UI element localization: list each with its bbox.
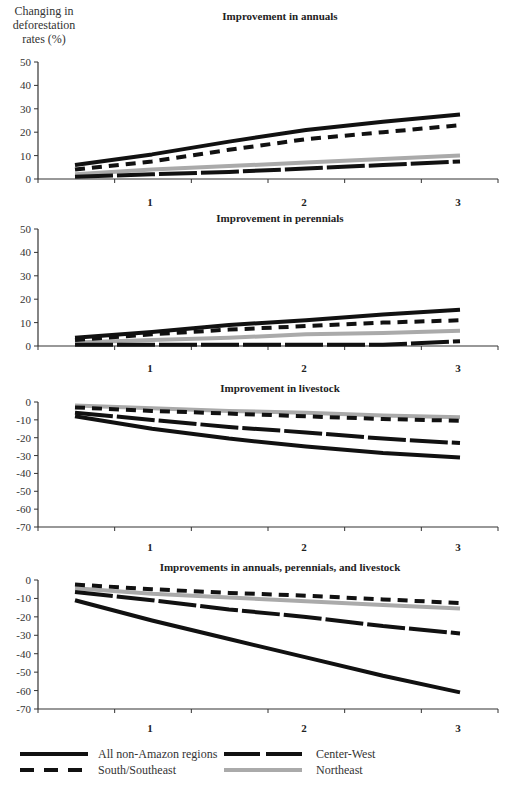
y-tick-label: -40 bbox=[16, 467, 31, 479]
y-tick-label: 20 bbox=[20, 126, 32, 138]
y-tick-label: 0 bbox=[26, 396, 32, 408]
series-line-all-non-amazon-regions bbox=[75, 416, 460, 457]
y-tick-label: 0 bbox=[26, 574, 32, 586]
chart-title: Improvement in annuals bbox=[222, 10, 338, 22]
legend-label: All non-Amazon regions bbox=[98, 747, 217, 762]
y-tick-label: -20 bbox=[16, 432, 31, 444]
legend-item-all-non-amazon: All non-Amazon regions bbox=[18, 746, 217, 762]
x-tick-label: 2 bbox=[301, 722, 307, 734]
legend-item-center-west: Center-West bbox=[222, 746, 375, 762]
y-tick-label: -60 bbox=[16, 503, 31, 515]
chart-title: Improvement in livestock bbox=[220, 382, 340, 394]
legend-swatch-long-dash-icon bbox=[222, 746, 304, 762]
chart-title: Improvements in annuals, perennials, and… bbox=[160, 561, 402, 573]
chart-panel-4: Improvements in annuals, perennials, and… bbox=[16, 561, 498, 734]
y-tick-label: -50 bbox=[16, 485, 31, 497]
chart-canvas: Improvement in annuals01020304050123Impr… bbox=[0, 0, 511, 742]
y-tick-label: 30 bbox=[20, 270, 32, 282]
legend-swatch-short-dash-icon bbox=[18, 762, 90, 778]
y-tick-label: 10 bbox=[20, 150, 32, 162]
legend-swatch-gray-solid-icon bbox=[222, 762, 304, 778]
legend-label: Northeast bbox=[316, 763, 363, 778]
y-tick-label: 40 bbox=[20, 246, 32, 258]
y-tick-label: -40 bbox=[16, 648, 31, 660]
x-tick-label: 3 bbox=[455, 362, 461, 374]
y-tick-label: -30 bbox=[16, 450, 31, 462]
y-tick-label: 30 bbox=[20, 103, 32, 115]
x-tick-label: 3 bbox=[455, 722, 461, 734]
y-tick-label: -70 bbox=[16, 521, 31, 533]
x-tick-label: 1 bbox=[147, 722, 153, 734]
x-tick-label: 2 bbox=[301, 362, 307, 374]
x-tick-label: 1 bbox=[147, 541, 153, 553]
y-tick-label: 10 bbox=[20, 317, 32, 329]
y-tick-label: -70 bbox=[16, 703, 31, 715]
y-tick-label: 50 bbox=[20, 223, 32, 235]
x-tick-label: 3 bbox=[455, 541, 461, 553]
legend: All non-Amazon regions South/Southeast C… bbox=[0, 742, 511, 782]
y-tick-label: -20 bbox=[16, 611, 31, 623]
legend-item-northeast: Northeast bbox=[222, 762, 363, 778]
chart-panel-3: Improvement in livestock0-10-20-30-40-50… bbox=[16, 382, 498, 553]
chart-title: Improvement in perennials bbox=[216, 212, 344, 224]
y-tick-label: -30 bbox=[16, 629, 31, 641]
y-tick-label: -10 bbox=[16, 592, 31, 604]
legend-swatch-solid-icon bbox=[18, 746, 90, 762]
x-tick-label: 2 bbox=[301, 541, 307, 553]
chart-panel-1: Improvement in annuals01020304050123 bbox=[20, 10, 498, 208]
legend-item-south-southeast: South/Southeast bbox=[18, 762, 176, 778]
y-tick-label: -60 bbox=[16, 685, 31, 697]
x-tick-label: 2 bbox=[301, 196, 307, 208]
chart-panel-2: Improvement in perennials01020304050123 bbox=[20, 212, 498, 374]
y-tick-label: 0 bbox=[26, 340, 32, 352]
y-tick-label: 50 bbox=[20, 56, 32, 68]
x-tick-label: 1 bbox=[147, 196, 153, 208]
legend-label: South/Southeast bbox=[98, 763, 176, 778]
y-tick-label: 0 bbox=[26, 173, 32, 185]
x-tick-label: 3 bbox=[455, 196, 461, 208]
y-tick-label: -50 bbox=[16, 666, 31, 678]
y-tick-label: 20 bbox=[20, 293, 32, 305]
x-tick-label: 1 bbox=[147, 362, 153, 374]
y-tick-label: -10 bbox=[16, 414, 31, 426]
legend-label: Center-West bbox=[316, 747, 375, 762]
y-tick-label: 40 bbox=[20, 79, 32, 91]
